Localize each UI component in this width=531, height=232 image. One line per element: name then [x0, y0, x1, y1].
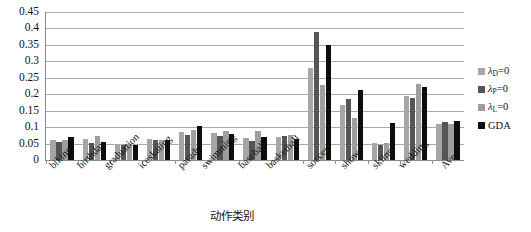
- bar-group: [303, 12, 335, 160]
- y-tick-label: 0.1: [25, 121, 39, 133]
- bar: [340, 105, 345, 160]
- x-label-cell: swimming: [206, 161, 238, 209]
- x-label-cell: wedding: [399, 161, 431, 209]
- y-tick-label: 0.2: [25, 88, 39, 100]
- bar-group: [46, 12, 78, 160]
- plot-area: [45, 12, 464, 161]
- bar: [326, 45, 331, 160]
- legend-entry[interactable]: λD=0: [478, 62, 531, 80]
- chart-legend: λD=0λP=0λL=0GDA: [478, 62, 531, 134]
- x-label-cell: basketball: [270, 161, 302, 209]
- y-tick-label: 0.3: [25, 55, 39, 67]
- legend-entry[interactable]: GDA: [478, 116, 531, 134]
- legend-label: GDA: [488, 120, 511, 131]
- x-label-cell: skiing: [367, 161, 399, 209]
- bar-group: [239, 12, 271, 160]
- bar-group: [400, 12, 432, 160]
- x-label-cell: parade: [174, 161, 206, 209]
- bar: [314, 32, 319, 160]
- x-label-cell: graduation: [109, 161, 141, 209]
- x-label-cell: iceskating: [141, 161, 173, 209]
- y-tick-label: 0: [33, 154, 39, 166]
- bar-group: [432, 12, 464, 160]
- y-tick-label: 0.25: [19, 72, 39, 84]
- legend-entry[interactable]: λP=0: [478, 80, 531, 98]
- bar-group: [78, 12, 110, 160]
- y-tick-label: 0.15: [19, 105, 39, 117]
- x-axis-labels: bikingbirthdaygraduationiceskatingparade…: [45, 161, 463, 209]
- x-label-cell: show: [334, 161, 366, 209]
- bar: [308, 68, 313, 160]
- legend-swatch: [478, 122, 485, 129]
- x-axis-title: 动作类别: [0, 207, 463, 223]
- legend-swatch: [478, 86, 485, 93]
- y-tick-label: 0.35: [19, 39, 39, 51]
- legend-label: λD=0: [488, 65, 509, 77]
- y-tick-label: 0.4: [25, 22, 39, 34]
- bar: [358, 90, 363, 160]
- legend-label: λL=0: [488, 101, 508, 113]
- x-label-cell: soccer: [302, 161, 334, 209]
- y-axis: 00.050.10.150.20.250.30.350.40.45: [0, 0, 44, 170]
- x-label-cell: biking: [45, 161, 77, 209]
- legend-label: λP=0: [488, 83, 508, 95]
- bar: [436, 124, 441, 160]
- y-tick-label: 0.45: [19, 6, 39, 18]
- legend-swatch: [478, 68, 485, 75]
- bar: [133, 145, 138, 160]
- bar-group: [335, 12, 367, 160]
- bar: [454, 121, 459, 160]
- y-tick-label: 0.05: [19, 138, 39, 150]
- x-label-cell: Ave: [431, 161, 463, 209]
- x-label-cell: baseball: [238, 161, 270, 209]
- bar-chart: 00.050.10.150.20.250.30.350.40.45 biking…: [0, 0, 531, 232]
- bar-group: [175, 12, 207, 160]
- bar-group: [368, 12, 400, 160]
- legend-entry[interactable]: λL=0: [478, 98, 531, 116]
- bars-layer: [46, 12, 464, 160]
- legend-swatch: [478, 104, 485, 111]
- x-label-cell: birthday: [77, 161, 109, 209]
